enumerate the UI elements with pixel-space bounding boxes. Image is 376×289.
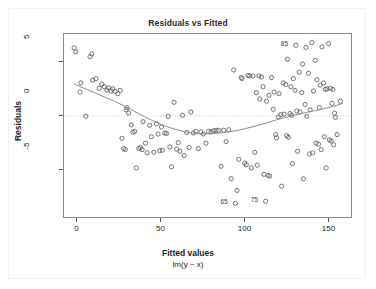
y-axis-tick bbox=[59, 169, 63, 170]
outlier-label: 85 bbox=[281, 40, 288, 47]
y-axis-tick bbox=[59, 61, 63, 62]
x-axis-tick bbox=[244, 218, 245, 222]
x-axis-label: Fitted values bbox=[0, 248, 376, 258]
x-axis-tick-label: 100 bbox=[224, 224, 264, 233]
outlier-label: 65 bbox=[220, 198, 227, 205]
plot-area: 856575 bbox=[64, 34, 351, 217]
plot-frame: 856575 bbox=[63, 33, 352, 218]
outlier-label: 75 bbox=[251, 196, 258, 203]
x-axis-tick-label: 150 bbox=[308, 224, 348, 233]
x-axis-tick-label: 0 bbox=[56, 224, 96, 233]
x-axis-tick bbox=[328, 218, 329, 222]
loess-smoother-layer bbox=[64, 34, 351, 217]
x-axis-tick bbox=[76, 218, 77, 222]
x-axis-sublabel: lm(y ~ x) bbox=[0, 260, 376, 269]
x-axis-tick-label: 50 bbox=[140, 224, 180, 233]
y-axis-label: Residuals bbox=[13, 71, 23, 171]
plot-title: Residuals vs Fitted bbox=[0, 18, 376, 28]
x-axis-tick bbox=[160, 218, 161, 222]
y-axis-tick bbox=[59, 115, 63, 116]
chart-root: Residuals vs Fitted 856575 05010015050-5… bbox=[0, 0, 376, 289]
